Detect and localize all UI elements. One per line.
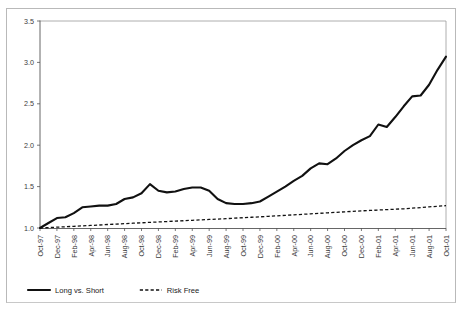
x-tick-label: Dec-99: [256, 235, 265, 258]
y-tick-label: 1.5: [24, 182, 34, 191]
x-tick-label: Oct-97: [36, 235, 45, 257]
x-tick-label: Jun-01: [408, 235, 417, 257]
series-line-long-vs-short: [40, 57, 446, 228]
x-tick-label: Apr-99: [188, 235, 197, 257]
x-axis-ticks: Oct-97Dec-97Feb-98Apr-98Jun-98Aug-98Oct-…: [36, 228, 451, 258]
x-tick-label: Apr-98: [87, 235, 96, 257]
legend-label: Risk Free: [167, 286, 200, 295]
x-tick-label: Aug-98: [120, 235, 129, 258]
x-tick-label: Oct-98: [137, 235, 146, 257]
x-tick-label: Jun-00: [306, 235, 315, 257]
line-chart: 1.01.52.02.53.03.5 Oct-97Dec-97Feb-98Apr…: [0, 0, 462, 311]
legend-label: Long vs. Short: [55, 286, 105, 295]
y-tick-label: 3.0: [24, 58, 34, 67]
x-tick-label: Apr-00: [290, 235, 299, 257]
x-tick-label: Dec-98: [154, 235, 163, 258]
x-tick-label: Aug-00: [323, 235, 332, 258]
y-tick-label: 3.5: [24, 17, 34, 26]
x-tick-label: Feb-99: [171, 235, 180, 258]
series-line-risk-free: [40, 206, 446, 228]
x-tick-label: Dec-97: [53, 235, 62, 258]
x-tick-label: Aug-99: [222, 235, 231, 258]
y-axis-ticks: 1.01.52.02.53.03.5: [24, 17, 40, 233]
x-tick-label: Oct-00: [340, 235, 349, 257]
chart-figure: 1.01.52.02.53.03.5 Oct-97Dec-97Feb-98Apr…: [0, 0, 462, 311]
x-tick-label: Oct-99: [239, 235, 248, 257]
chart-legend: Long vs. ShortRisk Free: [28, 286, 199, 295]
x-tick-label: Feb-01: [374, 235, 383, 258]
y-tick-label: 1.0: [24, 224, 34, 233]
x-tick-label: Apr-01: [391, 235, 400, 257]
x-tick-label: Feb-00: [273, 235, 282, 258]
x-tick-label: Dec-00: [357, 235, 366, 258]
y-tick-label: 2.5: [24, 99, 34, 108]
x-tick-label: Jun-98: [103, 235, 112, 257]
x-tick-label: Feb-98: [70, 235, 79, 258]
series-group: [40, 57, 446, 228]
x-tick-label: Jun-99: [205, 235, 214, 257]
y-tick-label: 2.0: [24, 141, 34, 150]
x-tick-label: Oct-01: [442, 235, 451, 257]
plot-area-border: [40, 21, 446, 228]
x-tick-label: Aug-01: [425, 235, 434, 258]
